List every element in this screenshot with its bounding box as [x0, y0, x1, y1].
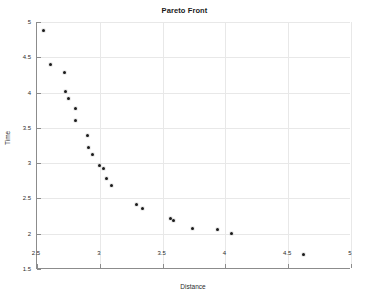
scatter-point [141, 207, 144, 210]
gridline-vertical [225, 22, 226, 268]
gridline-vertical [163, 22, 164, 268]
chart-figure: Pareto Front 2.533.544.55 1.522.533.544.… [0, 0, 369, 298]
y-tick-label: 3 [28, 160, 31, 166]
y-axis-label: Time [4, 131, 11, 145]
y-tick-label: 5 [28, 19, 31, 25]
y-tick-label: 4 [28, 90, 31, 96]
gridline-horizontal [37, 234, 350, 235]
gridline-vertical [288, 22, 289, 268]
gridline-horizontal [37, 128, 350, 129]
scatter-point [91, 153, 94, 156]
y-tick-label: 1.5 [23, 266, 31, 272]
y-tick-label: 2 [28, 231, 31, 237]
x-tick-label: 3 [97, 250, 100, 256]
gridline-horizontal [37, 163, 350, 164]
y-tick-mark [37, 93, 41, 94]
gridline-horizontal [37, 93, 350, 94]
plot-area [36, 22, 350, 269]
x-tick-label: 5 [348, 250, 351, 256]
scatter-point [67, 97, 70, 100]
gridline-horizontal [37, 22, 350, 23]
y-tick-mark [37, 22, 41, 23]
x-tick-mark [37, 264, 38, 268]
gridline-vertical [351, 22, 352, 268]
x-tick-label: 4 [223, 250, 226, 256]
y-tick-label: 2.5 [23, 195, 31, 201]
y-tick-mark [37, 163, 41, 164]
x-tick-mark [163, 264, 164, 268]
chart-title: Pareto Front [0, 6, 369, 15]
scatter-point [86, 134, 89, 137]
scatter-point [105, 177, 108, 180]
scatter-point [302, 253, 305, 256]
y-tick-mark [37, 234, 41, 235]
x-tick-mark [351, 264, 352, 268]
x-axis-label: Distance [36, 283, 350, 290]
x-tick-label: 4.5 [283, 250, 291, 256]
x-tick-mark [100, 264, 101, 268]
y-tick-label: 3.5 [23, 125, 31, 131]
x-tick-label: 2.5 [32, 250, 40, 256]
gridline-vertical [100, 22, 101, 268]
y-tick-label: 4.5 [23, 54, 31, 60]
scatter-point [110, 184, 113, 187]
y-tick-mark [37, 269, 41, 270]
gridline-horizontal [37, 57, 350, 58]
scatter-point [102, 167, 105, 170]
y-tick-mark [37, 198, 41, 199]
scatter-point [42, 29, 45, 32]
gridline-horizontal [37, 198, 350, 199]
x-tick-mark [288, 264, 289, 268]
y-tick-mark [37, 57, 41, 58]
x-tick-mark [225, 264, 226, 268]
y-tick-mark [37, 128, 41, 129]
x-tick-label: 3.5 [157, 250, 165, 256]
